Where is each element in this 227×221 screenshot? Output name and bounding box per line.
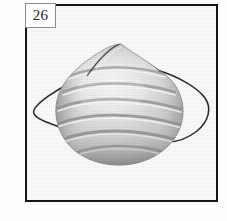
figure-label-box: 26	[25, 3, 56, 28]
mask-body	[49, 40, 193, 172]
figure-plate: 26	[0, 0, 227, 221]
dust-mask-illustration	[25, 4, 218, 202]
figure-number-label: 26	[33, 8, 49, 23]
